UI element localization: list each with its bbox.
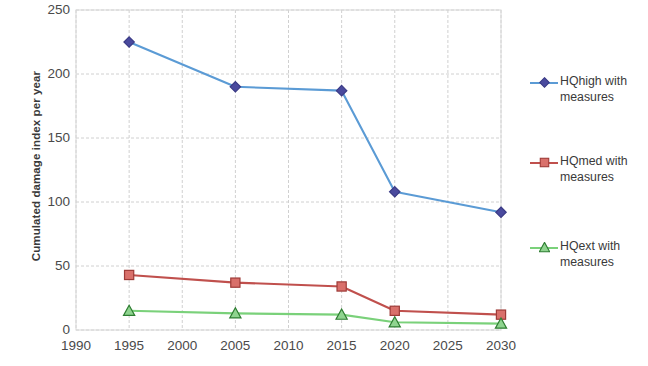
y-tick-label: 50 [32, 259, 70, 273]
data-point-marker [125, 270, 134, 279]
legend-symbol [539, 157, 550, 168]
plot-area [76, 10, 501, 330]
chart-legend: HQhigh with measuresHQmed with measuresH… [530, 0, 648, 366]
x-tick-label: 2015 [312, 339, 372, 353]
y-tick-label: 150 [32, 131, 70, 145]
legend-label: HQext with measures [560, 239, 646, 270]
legend-symbol [539, 242, 550, 253]
x-tick-label: 1990 [46, 339, 106, 353]
line-chart: Cumulated damage index per year 25020015… [0, 0, 648, 366]
data-point-marker [124, 37, 134, 47]
y-axis-tick-labels: 250200150100500 [24, 0, 70, 366]
x-tick-label: 2005 [205, 339, 265, 353]
x-tick-label: 2000 [152, 339, 212, 353]
legend-entry[interactable]: HQhigh with measures [530, 74, 648, 105]
data-point-marker [337, 282, 346, 291]
x-tick-label: 2030 [471, 339, 531, 353]
x-tick-label: 2010 [259, 339, 319, 353]
data-point-marker [390, 187, 400, 197]
series-line [129, 275, 501, 315]
y-tick-label: 250 [32, 3, 70, 17]
legend-symbol [539, 77, 550, 88]
data-point-marker [496, 207, 506, 217]
legend-entry[interactable]: HQmed with measures [530, 154, 648, 185]
y-tick-label: 200 [32, 67, 70, 81]
x-tick-label: 1995 [99, 339, 159, 353]
x-tick-label: 2025 [418, 339, 478, 353]
y-tick-label: 0 [32, 323, 70, 337]
legend-label: HQmed with measures [560, 154, 646, 185]
data-point-marker [336, 85, 346, 95]
legend-label: HQhigh with measures [560, 74, 646, 105]
plot-svg [76, 10, 501, 330]
legend-marker-triangle-icon [530, 240, 560, 256]
data-point-marker [390, 306, 399, 315]
y-tick-label: 100 [32, 195, 70, 209]
data-point-marker [230, 82, 240, 92]
data-point-marker [231, 278, 240, 287]
series-line [129, 42, 501, 212]
legend-marker-diamond-icon [530, 75, 560, 91]
legend-entry[interactable]: HQext with measures [530, 239, 648, 270]
x-tick-label: 2020 [365, 339, 425, 353]
legend-marker-square-icon [530, 155, 560, 171]
